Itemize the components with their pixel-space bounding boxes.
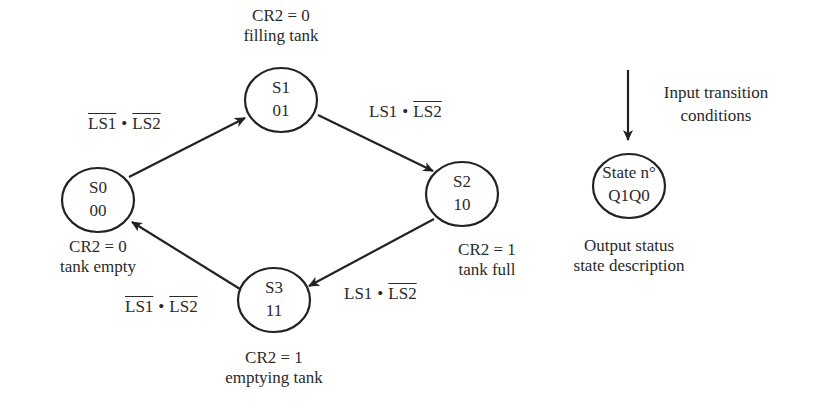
state-s3-code: 11	[249, 301, 299, 321]
transition-s2-s3-condition: LS1•LS2	[344, 284, 417, 304]
legend-input-line1: Input transition	[636, 83, 796, 103]
state-s2-name: S2	[437, 172, 487, 192]
state-s2-code: 10	[437, 195, 487, 215]
output-value: CR2 = 0	[28, 237, 168, 257]
state-s3-name: S3	[249, 278, 299, 298]
and-operator: •	[372, 284, 388, 303]
transition-s3-s0-condition: LS1•LS2	[125, 297, 198, 317]
state-s1-label: S1 01	[256, 78, 306, 121]
state-description: tank empty	[28, 257, 168, 277]
condition-ls1-negated: LS1	[88, 114, 116, 133]
state-s1-output: CR2 = 0 filling tank	[211, 6, 351, 46]
legend-input-line2: conditions	[636, 106, 796, 126]
state-s1-code: 01	[256, 101, 306, 121]
legend-state-number: State n°	[589, 163, 669, 183]
legend-output-line2: state description	[554, 256, 704, 276]
legend-output-label: Output status state description	[554, 236, 704, 276]
legend-state-code: Q1Q0	[589, 186, 669, 206]
condition-ls1: LS1	[344, 284, 372, 303]
and-operator: •	[397, 102, 413, 121]
condition-ls2-negated: LS2	[413, 102, 441, 121]
output-value: CR2 = 1	[412, 240, 562, 260]
state-s3-label: S3 11	[249, 278, 299, 321]
state-s2-label: S2 10	[437, 172, 487, 215]
legend-state-label: State n° Q1Q0	[589, 163, 669, 206]
legend-input-label: Input transition conditions	[636, 83, 796, 126]
state-s0-code: 00	[73, 201, 123, 221]
state-s0-label: S0 00	[73, 178, 123, 221]
state-s3-output: CR2 = 1 emptying tank	[204, 348, 344, 388]
state-s2-output: CR2 = 1 tank full	[412, 240, 562, 280]
state-s0-name: S0	[73, 178, 123, 198]
output-value: CR2 = 1	[204, 348, 344, 368]
condition-ls1: LS1	[369, 102, 397, 121]
and-operator: •	[153, 297, 169, 316]
state-description: filling tank	[211, 26, 351, 46]
condition-ls2-negated: LS2	[388, 284, 416, 303]
condition-ls2-negated: LS2	[169, 297, 197, 316]
transition-s1-s2-condition: LS1•LS2	[369, 102, 442, 122]
output-value: CR2 = 0	[211, 6, 351, 26]
and-operator: •	[116, 114, 132, 133]
state-s1-name: S1	[256, 78, 306, 98]
legend-output-line1: Output status	[554, 236, 704, 256]
transition-s0-s1-condition: LS1•LS2	[88, 114, 161, 134]
state-description: tank full	[412, 260, 562, 280]
state-description: emptying tank	[204, 368, 344, 388]
state-s0-output: CR2 = 0 tank empty	[28, 237, 168, 277]
condition-ls1-negated: LS1	[125, 297, 153, 316]
condition-ls2-negated: LS2	[132, 114, 160, 133]
arrow-s1-s2	[318, 115, 433, 171]
